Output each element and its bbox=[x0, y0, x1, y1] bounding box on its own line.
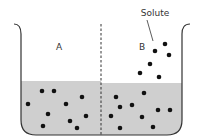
particle-b-liquid bbox=[168, 108, 173, 113]
particle-a-liquid bbox=[75, 126, 80, 131]
particle-a-liquid bbox=[68, 119, 73, 124]
particle-a-liquid bbox=[40, 89, 45, 94]
particle-b-liquid bbox=[130, 103, 135, 108]
particle-a-liquid bbox=[46, 112, 51, 117]
particle-b-above bbox=[157, 75, 162, 80]
label-compartment-b: B bbox=[139, 42, 145, 52]
particle-b-above bbox=[163, 42, 168, 47]
label-solute: Solute bbox=[141, 8, 170, 18]
particle-b-above bbox=[138, 71, 143, 76]
label-compartment-a: A bbox=[56, 42, 63, 52]
particle-a-liquid bbox=[52, 89, 57, 94]
particle-b-liquid bbox=[114, 95, 119, 100]
particle-b-liquid bbox=[118, 126, 123, 131]
particle-b-liquid bbox=[142, 91, 147, 96]
particle-a-liquid bbox=[26, 102, 31, 107]
particle-a-liquid bbox=[80, 95, 85, 100]
solute-pointer-line bbox=[147, 20, 153, 41]
particle-b-liquid bbox=[109, 114, 114, 119]
osmosis-beaker-diagram: A B Solute bbox=[0, 0, 199, 139]
particle-b-above bbox=[153, 49, 158, 54]
particle-a-liquid bbox=[64, 102, 69, 107]
particle-b-liquid bbox=[156, 108, 161, 113]
particle-a-liquid bbox=[41, 124, 46, 129]
particle-b-liquid bbox=[118, 105, 123, 110]
particle-b-above bbox=[148, 62, 153, 67]
particle-b-liquid bbox=[140, 115, 145, 120]
particle-b-above bbox=[167, 53, 172, 58]
particle-a-liquid bbox=[84, 114, 89, 119]
particle-b-liquid bbox=[151, 125, 156, 130]
